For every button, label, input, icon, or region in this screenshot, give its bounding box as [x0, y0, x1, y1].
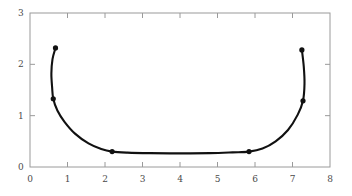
- data-point-marker: [53, 45, 58, 50]
- y-tick-label: 2: [18, 60, 24, 69]
- y-tick-label: 0: [18, 163, 24, 172]
- x-tick-label: 0: [27, 175, 33, 184]
- x-tick-label: 1: [65, 175, 71, 184]
- data-series-curve: [51, 48, 304, 153]
- data-point-marker: [246, 149, 251, 154]
- data-point-marker: [51, 96, 56, 101]
- data-point-marker: [110, 149, 115, 154]
- axis-ticks: [30, 13, 330, 167]
- y-tick-label: 1: [18, 111, 24, 120]
- x-tick-label: 4: [177, 175, 183, 184]
- x-tick-label: 7: [290, 175, 296, 184]
- x-tick-label: 8: [327, 175, 333, 184]
- x-tick-label: 2: [102, 175, 108, 184]
- data-point-markers: [51, 45, 306, 154]
- y-tick-label: 3: [18, 9, 24, 18]
- data-point-marker: [300, 98, 305, 103]
- chart-plot-area: [0, 0, 352, 196]
- chart-figure: 012345678 0123: [0, 0, 352, 196]
- x-tick-label: 6: [252, 175, 258, 184]
- x-tick-label: 5: [215, 175, 221, 184]
- data-point-marker: [299, 47, 304, 52]
- x-tick-label: 3: [140, 175, 146, 184]
- axis-frame: [30, 13, 330, 167]
